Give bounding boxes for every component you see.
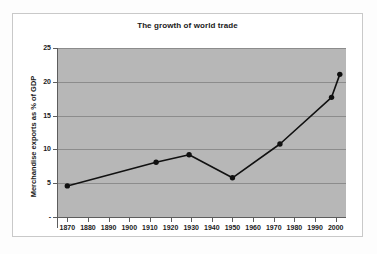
y-tick-mark <box>53 82 58 83</box>
x-tick-mark <box>294 218 295 222</box>
y-tick-mark <box>53 116 58 117</box>
x-tick-mark <box>336 218 337 222</box>
y-tick-label: 25 <box>23 44 51 51</box>
x-tick-mark <box>253 218 254 222</box>
y-tick-mark <box>53 149 58 150</box>
x-tick-mark <box>191 218 192 222</box>
y-tick-label: 20 <box>23 78 51 85</box>
x-tick-mark <box>232 218 233 222</box>
y-tick-label: 15 <box>23 112 51 119</box>
gridline <box>58 48 346 49</box>
gridline <box>58 149 346 150</box>
x-tick-mark <box>150 218 151 222</box>
gridline <box>58 116 346 117</box>
chart-title: The growth of world trade <box>13 21 362 30</box>
chart-frame: The growth of world trade Merchandise ex… <box>12 13 363 237</box>
x-tick-mark <box>171 218 172 222</box>
gridline <box>58 82 346 83</box>
plot-area <box>57 48 346 217</box>
x-tick-mark <box>274 218 275 222</box>
gridline <box>58 183 346 184</box>
y-tick-label: - <box>23 213 51 220</box>
y-tick-label: 5 <box>23 179 51 186</box>
x-axis-line <box>57 217 346 218</box>
x-tick-mark <box>212 218 213 222</box>
screenshot-root: The growth of world trade Merchandise ex… <box>0 0 377 254</box>
x-tick-mark <box>88 218 89 222</box>
x-tick-mark <box>315 218 316 222</box>
y-tick-mark <box>53 48 58 49</box>
y-axis-line <box>57 48 58 228</box>
y-tick-mark <box>53 217 58 218</box>
x-tick-mark <box>67 218 68 222</box>
y-tick-mark <box>53 183 58 184</box>
y-axis-ticks: -510152025 <box>13 14 51 254</box>
x-tick-mark <box>129 218 130 222</box>
x-tick-label: 2000 <box>319 224 353 231</box>
x-tick-mark <box>109 218 110 222</box>
y-tick-label: 10 <box>23 145 51 152</box>
